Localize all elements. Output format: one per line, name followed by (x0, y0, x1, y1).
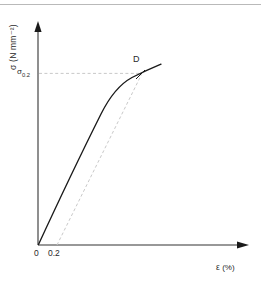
x-axis-label: ε (%) (216, 262, 235, 272)
point-d-label: D (133, 54, 140, 64)
x-axis-arrowhead (237, 241, 249, 248)
x-axis-label-unit: (%) (222, 263, 234, 272)
sigma-subscript: 0.2 (22, 72, 30, 78)
y-axis-tick-sigma-0-2: σ0.2 (17, 67, 30, 78)
x-axis-tick-0-2: 0.2 (48, 248, 60, 258)
figure-root: σ (N mm⁻²) σ0.2 0 0.2 D ε (%) (0, 0, 261, 286)
offset-line (57, 75, 142, 246)
y-axis-label-text: σ (N mm⁻²) (8, 24, 18, 70)
stress-strain-plot (0, 0, 261, 286)
x-axis-label-symbol: ε (216, 262, 220, 272)
stress-strain-curve (39, 64, 162, 244)
x-axis-tick-0: 0 (34, 248, 39, 258)
y-axis-arrowhead (34, 21, 41, 32)
